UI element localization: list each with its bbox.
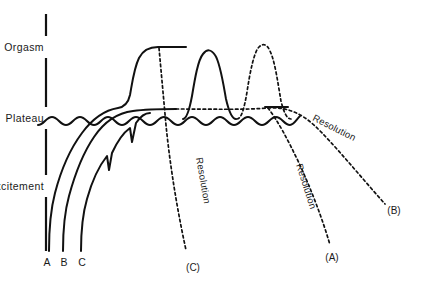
curve-c-wavy-plateau: [38, 116, 300, 125]
figure-canvas: Orgasm Plateau Excitement A B C (C) (A) …: [0, 0, 425, 282]
axis-label-plateau: Plateau: [6, 112, 44, 124]
curve-key-a: A: [43, 256, 50, 268]
endpoint-label-a: (A): [325, 252, 338, 263]
resolution-label-b: Resolution: [311, 112, 358, 143]
endpoint-label-c: (C): [186, 262, 200, 273]
curve-a-solid: [49, 47, 186, 251]
sexual-response-cycle-figure: Orgasm Plateau Excitement A B C (C) (A) …: [0, 0, 425, 282]
curve-c-solid: [81, 113, 150, 251]
curve-c-resolution-dashed: [159, 48, 186, 250]
curve-key-b: B: [60, 256, 67, 268]
resolution-label-c: Resolution: [194, 156, 213, 204]
axis-label-excitement: Excitement: [0, 180, 44, 192]
endpoint-label-b: (B): [387, 205, 400, 216]
curve-key-c: C: [78, 256, 86, 268]
resolution-label-a: Resolution: [294, 162, 319, 210]
axis-label-orgasm: Orgasm: [4, 41, 44, 53]
curve-b-solid: [63, 109, 176, 251]
